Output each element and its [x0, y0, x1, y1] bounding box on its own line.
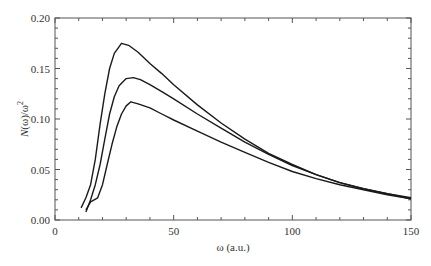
y-tick-label: 0.20 — [31, 12, 51, 24]
series-line-2 — [86, 78, 411, 212]
y-tick-label: 0.05 — [31, 164, 51, 176]
line-chart: 0501001500.000.050.100.150.20 ω (a.u.) N… — [0, 0, 431, 266]
series-line-3 — [86, 102, 411, 210]
y-tick-label: 0.10 — [31, 113, 51, 125]
data-series — [81, 43, 411, 212]
y-tick-label: 0.15 — [31, 63, 51, 75]
series-line-1 — [81, 43, 411, 208]
x-tick-label: 100 — [284, 225, 301, 237]
x-axis-label: ω (a.u.) — [216, 241, 250, 254]
y-axis-label: N(ω)/ω2 — [16, 101, 31, 138]
y-tick-label: 0.00 — [31, 214, 51, 226]
x-tick-label: 150 — [403, 225, 420, 237]
x-tick-label: 0 — [52, 225, 58, 237]
x-tick-label: 50 — [168, 225, 180, 237]
